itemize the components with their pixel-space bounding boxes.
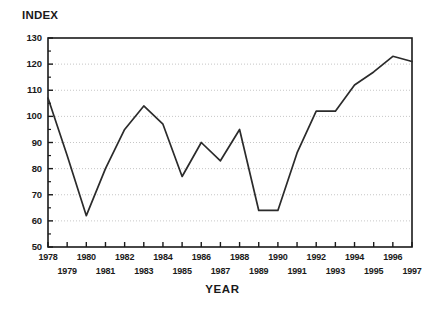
y-tick-label: 50 — [16, 241, 42, 252]
y-tick-label: 120 — [16, 58, 42, 69]
x-tick-label: 1988 — [223, 252, 257, 262]
x-tick-label: 1990 — [261, 252, 295, 262]
x-tick-label: 1982 — [108, 252, 142, 262]
x-tick-label: 1993 — [318, 266, 352, 276]
x-tick-label: 1983 — [127, 266, 161, 276]
y-tick-label: 60 — [16, 215, 42, 226]
x-tick-label: 1989 — [242, 266, 276, 276]
y-tick-label: 110 — [16, 84, 42, 95]
x-axis-title: YEAR — [0, 283, 431, 295]
x-tick-label: 1984 — [146, 252, 180, 262]
x-tick-label: 1996 — [376, 252, 410, 262]
y-tick-label: 130 — [16, 32, 42, 43]
data-series-line — [48, 56, 412, 215]
x-tick-label: 1985 — [165, 266, 199, 276]
x-tick-label: 1981 — [88, 266, 122, 276]
x-tick-label: 1978 — [31, 252, 65, 262]
x-tick-label: 1997 — [395, 266, 429, 276]
y-tick-label: 100 — [16, 110, 42, 121]
y-tick-label: 90 — [16, 137, 42, 148]
y-tick-label: 80 — [16, 163, 42, 174]
index-year-line-chart: INDEX 5060708090100110120130 19781979198… — [0, 0, 431, 309]
gridlines-group — [49, 64, 411, 221]
x-tick-label: 1991 — [280, 266, 314, 276]
x-tick-label: 1980 — [69, 252, 103, 262]
x-tick-label: 1987 — [203, 266, 237, 276]
x-tick-label: 1979 — [50, 266, 84, 276]
x-tick-label: 1994 — [338, 252, 372, 262]
x-tick-label: 1992 — [299, 252, 333, 262]
x-axis-title-text: YEAR — [205, 283, 239, 295]
x-tick-label: 1995 — [357, 266, 391, 276]
plot-area — [0, 0, 431, 309]
y-tick-label: 70 — [16, 189, 42, 200]
x-tick-label: 1986 — [184, 252, 218, 262]
